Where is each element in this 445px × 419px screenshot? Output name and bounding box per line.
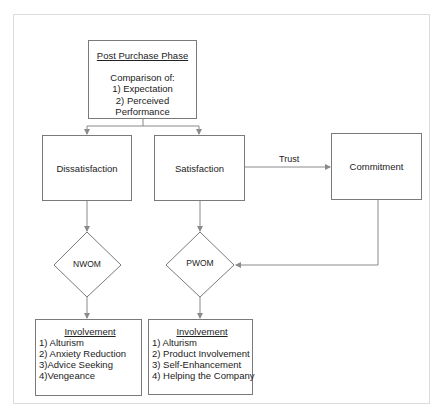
commitment-label: Commitment: [350, 161, 404, 172]
trust-label: Trust: [279, 154, 299, 164]
nwom-involvement-box: Involvement 1) Alturism 2) Anxiety Reduc…: [35, 319, 142, 396]
list-item: 2) Anxiety Reduction: [39, 348, 141, 359]
pwom-label: PWOM: [170, 258, 230, 268]
expectation-item: 1) Expectation: [89, 83, 196, 95]
involvement-heading: Involvement: [152, 326, 252, 337]
dissatisfaction-box: Dissatisfaction: [42, 135, 132, 201]
post-purchase-title: Post Purchase Phase: [89, 50, 196, 62]
list-item: 4)Vengeance: [39, 370, 141, 381]
comparison-label: Comparison of:: [89, 72, 196, 84]
dissatisfaction-label: Dissatisfaction: [56, 163, 117, 174]
commitment-box: Commitment: [331, 133, 422, 200]
list-item: 3)Advice Seeking: [39, 359, 141, 370]
list-item: 1) Alturism: [152, 337, 252, 348]
involvement-heading: Involvement: [39, 326, 141, 337]
list-item: 4) Helping the Company: [152, 370, 252, 381]
list-item: 2) Product Involvement: [152, 348, 252, 359]
list-item: 3) Self-Enhancement: [152, 359, 252, 370]
satisfaction-box: Satisfaction: [154, 135, 245, 201]
pwom-involvement-box: Involvement 1) Alturism 2) Product Invol…: [148, 319, 253, 395]
nwom-label: NWOM: [57, 259, 117, 269]
satisfaction-label: Satisfaction: [175, 163, 224, 174]
list-item: 1) Alturism: [39, 337, 141, 348]
post-purchase-box: Post Purchase Phase Comparison of: 1) Ex…: [88, 40, 197, 119]
perceived-performance-item: 2) Perceived Performance: [89, 95, 196, 118]
